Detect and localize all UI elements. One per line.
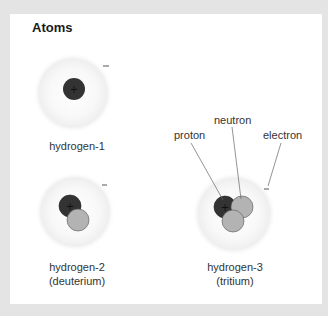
electron-leader-line	[268, 143, 281, 186]
atom-name: hydrogen-1	[27, 139, 127, 153]
atom-hydrogen-3: +	[191, 127, 281, 256]
atom-hydrogen-1: +	[33, 53, 113, 133]
caption-hydrogen-2: hydrogen-2 (deuterium)	[27, 260, 127, 288]
caption-hydrogen-3: hydrogen-3 (tritium)	[185, 260, 285, 288]
electron-label: electron	[263, 129, 302, 141]
neutron	[222, 210, 244, 232]
figure-stage: Atoms + +	[0, 0, 328, 316]
proton-charge-icon: +	[70, 84, 78, 95]
neutron	[67, 209, 89, 231]
atom-subtitle: (deuterium)	[27, 274, 127, 288]
atom-name: hydrogen-2	[27, 260, 127, 274]
atom-subtitle: (tritium)	[185, 274, 285, 288]
caption-hydrogen-1: hydrogen-1	[27, 139, 127, 153]
proton-label: proton	[174, 129, 205, 141]
neutron-label: neutron	[214, 114, 251, 126]
atom-hydrogen-2: +	[35, 172, 115, 252]
atom-name: hydrogen-3	[185, 260, 285, 274]
